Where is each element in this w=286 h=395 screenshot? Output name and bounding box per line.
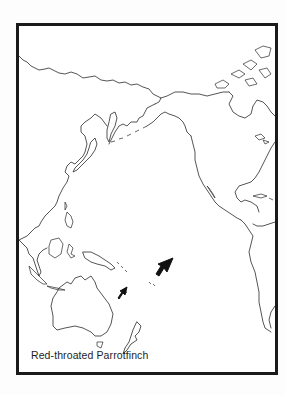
pacific-map — [19, 26, 275, 372]
japan-coastline — [73, 138, 97, 172]
south-america-east-coastline — [253, 222, 275, 328]
hudson-bay-coastline — [229, 92, 275, 118]
north-america-west-coastline — [191, 136, 241, 220]
southeast-asia-coastline — [19, 240, 47, 276]
sumatra — [29, 266, 47, 284]
alaska-south-coastline — [147, 112, 191, 136]
fiji-islands — [149, 282, 155, 286]
map-frame: Red-throated Parrotfinch — [16, 23, 278, 375]
page: Red-throated Parrotfinch — [0, 0, 286, 395]
sulawesi — [67, 244, 75, 258]
solomon-islands — [117, 262, 127, 272]
map-caption: Red-throated Parrotfinch — [31, 349, 148, 361]
java — [47, 286, 65, 290]
australia-coastline — [51, 276, 113, 336]
north-america-east-coastline — [235, 142, 275, 212]
philippines — [65, 202, 73, 228]
large-arrow-marker — [156, 258, 173, 276]
small-arrow-marker — [118, 287, 127, 299]
alaska-coastline — [161, 92, 229, 98]
new-guinea — [83, 252, 115, 270]
tasmania — [97, 342, 103, 348]
siberia-coastline — [19, 56, 161, 104]
east-asia-coastline — [19, 114, 107, 240]
caribbean-islands — [253, 194, 273, 200]
borneo — [49, 238, 63, 258]
south-america-west-coastline — [241, 220, 271, 332]
aleutian-islands — [111, 126, 147, 142]
great-lakes — [255, 134, 269, 144]
canadian-arctic-islands — [215, 46, 271, 88]
